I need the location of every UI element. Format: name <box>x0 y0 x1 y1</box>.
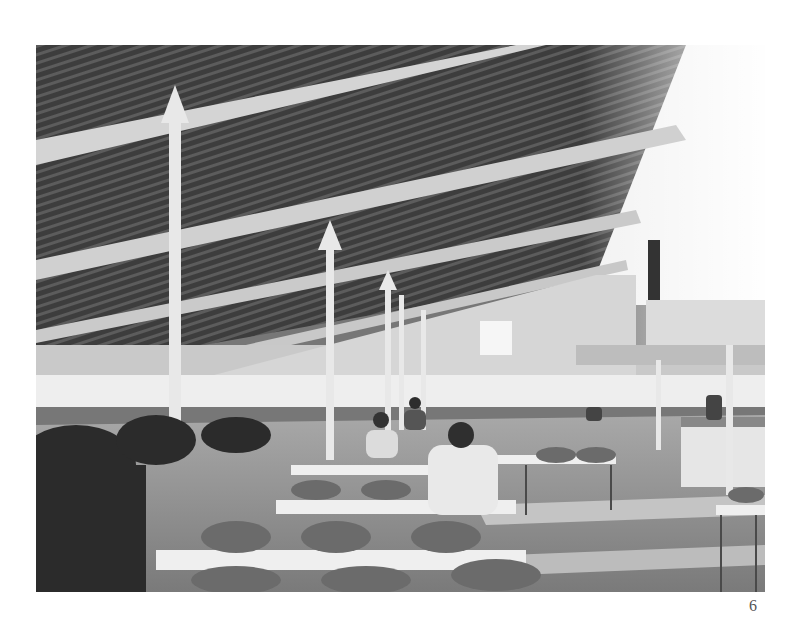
page-number: 6 <box>749 597 757 615</box>
cafeteria-photograph <box>36 45 765 592</box>
photo-illustration <box>36 45 765 592</box>
wall-window <box>480 321 512 355</box>
